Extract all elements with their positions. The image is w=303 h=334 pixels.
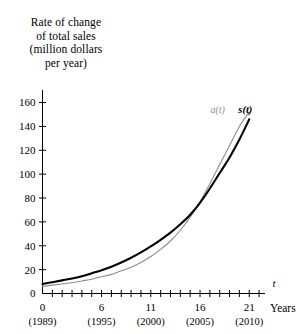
series-curve-at xyxy=(43,112,250,286)
y-axis-tick-label: 60 xyxy=(25,216,37,228)
y-axis-tick-label: 40 xyxy=(25,240,37,252)
chart-plot-area: 020406080100120140160 0(1989)6(1995)11(2… xyxy=(0,0,303,334)
x-axis-year-label: (2000) xyxy=(137,316,165,328)
x-axis-year-label: (2010) xyxy=(235,316,263,328)
data-series-group xyxy=(43,112,250,286)
x-axis-variable-label: t xyxy=(272,277,276,289)
chart-figure: Rate of change of total sales (million d… xyxy=(0,0,303,334)
y-axis-tick-label: 100 xyxy=(19,168,36,180)
y-axis-tick-label: 0 xyxy=(30,287,36,299)
x-axis-title: Years xyxy=(270,302,296,314)
x-axis-year-label: (1989) xyxy=(29,316,57,328)
x-axis-year-label: (2005) xyxy=(186,316,214,328)
x-axis: 0(1989)6(1995)11(2000)16(2005)21(2010)tY… xyxy=(29,277,297,328)
x-axis-year-label: (1995) xyxy=(88,316,116,328)
y-axis-tick-label: 160 xyxy=(19,96,36,108)
curve-label-st: s(t) xyxy=(237,104,252,116)
x-axis-tick-label: 21 xyxy=(244,301,255,313)
y-axis-tick-label: 20 xyxy=(25,264,37,276)
y-axis-tick-label: 140 xyxy=(19,120,36,132)
curve-label-group: a(t)s(t) xyxy=(211,104,253,116)
y-axis-tick-label: 80 xyxy=(25,192,37,204)
x-axis-tick-label: 16 xyxy=(195,301,207,313)
y-axis-tick-label: 120 xyxy=(19,144,36,156)
x-axis-tick-label: 6 xyxy=(99,301,105,313)
x-axis-tick-label: 0 xyxy=(40,301,46,313)
y-axis: 020406080100120140160 xyxy=(19,90,46,299)
x-axis-tick-label: 11 xyxy=(145,301,156,313)
curve-label-at: a(t) xyxy=(211,104,226,116)
